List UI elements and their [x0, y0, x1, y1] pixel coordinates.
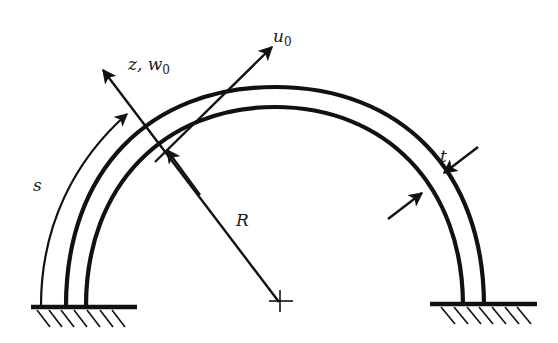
- radius-arrow: [167, 150, 200, 195]
- outer-arc: [66, 87, 484, 306]
- label-z-w0: z, w0: [127, 54, 170, 77]
- normal-axis-arrow: [103, 70, 279, 302]
- label-u0: u0: [273, 26, 292, 49]
- label-t: t: [440, 146, 447, 166]
- label-s: s: [33, 175, 42, 195]
- right-fixed-support: [430, 304, 537, 324]
- curved-beam-diagram: u0 z, w0 s R t: [0, 0, 558, 343]
- thickness-arrow-inner: [388, 193, 422, 219]
- label-R: R: [235, 210, 249, 230]
- left-fixed-support: [31, 307, 137, 327]
- tangential-displacement-arrow: [155, 47, 272, 162]
- inner-arc: [86, 107, 463, 306]
- thickness-arrow-outer: [444, 147, 478, 173]
